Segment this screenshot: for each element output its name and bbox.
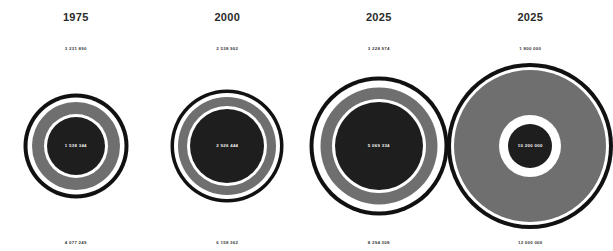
- column-bottom-value: 12 000 000: [518, 241, 542, 245]
- chart-column-1: 1975 3 231 890 1 538 344 4 077 249: [0, 0, 151, 251]
- bullseye-diagram: 2 926 444: [171, 90, 284, 203]
- bullseye-diagram: 1 538 344: [23, 94, 128, 199]
- chart-column-3: 2025 3 228 974 5 069 334 8 294 308: [303, 0, 454, 251]
- column-year-label: 2000: [214, 12, 240, 23]
- column-year-label: 2025: [366, 12, 392, 23]
- rings-container: 10 200 000: [455, 51, 606, 240]
- rings-container: 1 538 344: [0, 51, 151, 240]
- column-bottom-value: 4 077 249: [65, 241, 87, 245]
- rings-container: 5 069 334: [303, 51, 454, 240]
- column-bottom-value: 6 158 362: [216, 241, 238, 245]
- center-value-label: 10 200 000: [518, 144, 543, 148]
- rings-container: 2 926 444: [152, 51, 303, 240]
- center-value-label: 1 538 344: [65, 144, 87, 148]
- center-value-label: 5 069 334: [368, 144, 390, 148]
- column-bottom-value: 8 294 308: [368, 241, 390, 245]
- chart-column-4: 2025 1 800 000 10 200 000 12 000 000: [455, 0, 606, 251]
- column-year-label: 1975: [63, 12, 89, 23]
- bullseye-diagram: 5 069 334: [309, 77, 448, 216]
- bullseye-diagram: 10 200 000: [455, 63, 606, 229]
- column-year-label: 2025: [517, 12, 543, 23]
- center-value-label: 2 926 444: [216, 144, 238, 148]
- chart-column-2: 2000 2 538 902 2 926 444 6 158 362: [152, 0, 303, 251]
